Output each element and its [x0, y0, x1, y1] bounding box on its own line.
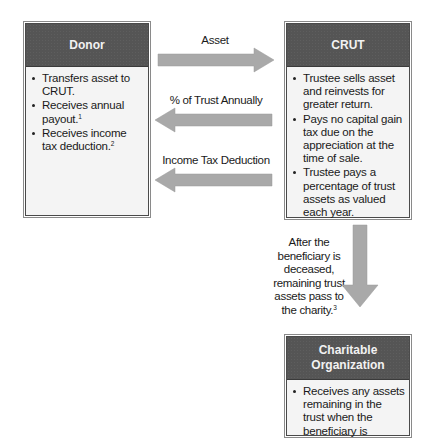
charity-arrow-shape	[342, 225, 378, 307]
crut-item: Trustee sells asset and reinvests for gr…	[303, 72, 405, 112]
donor-box: Donor Transfers asset to CRUT. Receives …	[25, 23, 149, 216]
charity-box: Charitable Organization Receives any ass…	[286, 336, 410, 436]
tax-arrow-shape	[155, 168, 272, 192]
footnote-marker: 1	[78, 113, 81, 120]
charity-item: Receives any assets remaining in the tru…	[303, 385, 405, 438]
footnote-marker: 2	[111, 140, 114, 147]
crut-item: Trustee pays a percentage of trust asset…	[303, 166, 405, 219]
crut-header: CRUT	[287, 24, 409, 67]
donor-header: Donor	[26, 24, 148, 67]
charity-header: Charitable Organization	[287, 337, 409, 380]
donor-item: Receives annual payout.1	[42, 99, 144, 125]
right-arrow-icon	[158, 48, 274, 72]
tax-flow-label: Income Tax Deduction	[154, 154, 278, 166]
asset-arrow-shape	[158, 48, 274, 72]
donor-item: Transfers asset to CRUT.	[42, 72, 144, 98]
charity-list: Receives any assets remaining in the tru…	[287, 380, 409, 438]
footnote-marker: 3	[333, 304, 336, 311]
asset-flow-label: Asset	[160, 34, 270, 46]
charity-flow-caption: After the beneficiary is deceased, remai…	[264, 236, 354, 317]
payout-arrow-shape	[155, 108, 272, 132]
crut-box: CRUT Trustee sells asset and reinvests f…	[286, 23, 410, 218]
payout-flow-label: % of Trust Annually	[154, 94, 278, 106]
donor-item: Receives income tax deduction.2	[42, 127, 144, 153]
left-arrow-icon	[155, 168, 272, 192]
crut-item: Pays no capital gain tax due on the appr…	[303, 113, 405, 166]
down-arrow-icon	[342, 225, 378, 307]
donor-list: Transfers asset to CRUT. Receives annual…	[26, 67, 148, 153]
left-arrow-icon	[155, 108, 272, 132]
crut-list: Trustee sells asset and reinvests for gr…	[287, 67, 409, 219]
